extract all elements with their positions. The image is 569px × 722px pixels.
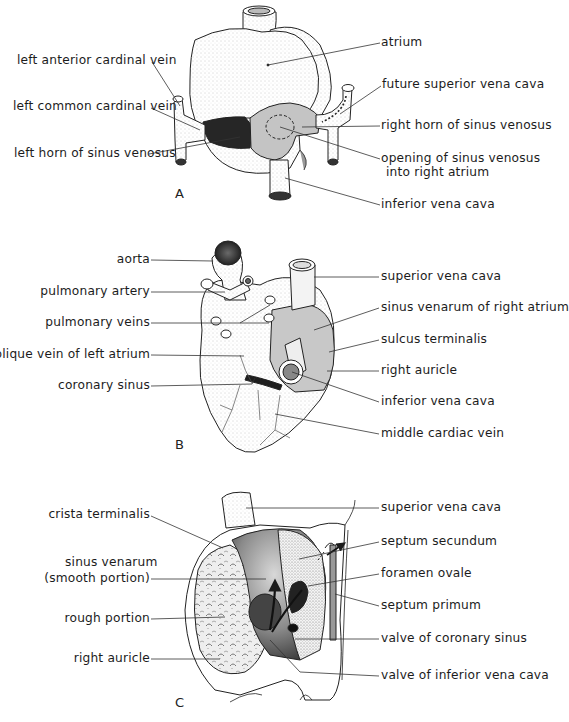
label-atrium: atrium xyxy=(381,35,422,49)
label-right-auricle-c: right auricle xyxy=(74,651,150,665)
label-into-right-atrium: into right atrium xyxy=(386,165,489,179)
label-smooth-portion: (smooth portion) xyxy=(44,571,150,585)
label-right-auricle-b: right auricle xyxy=(381,363,457,377)
label-future-superior-vena-cava: future superior vena cava xyxy=(382,77,544,91)
label-valve-inferior-vena-cava: valve of inferior vena cava xyxy=(381,668,549,682)
panel-a-drawing xyxy=(149,6,381,205)
label-middle-cardiac-vein: middle cardiac vein xyxy=(381,426,504,440)
label-sinus-venarum: sinus venarum xyxy=(65,555,155,569)
label-coronary-sinus: coronary sinus xyxy=(58,378,150,392)
panel-letter-b: B xyxy=(175,437,184,452)
label-inferior-vena-cava-a: inferior vena cava xyxy=(381,197,495,211)
panel-b-drawing xyxy=(151,241,379,452)
label-foramen-ovale: foramen ovale xyxy=(381,566,472,580)
label-sinus-venarum-right-atrium: sinus venarum of right atrium xyxy=(381,300,569,314)
label-opening-sinus-venosus: opening of sinus venosus xyxy=(381,151,540,165)
label-pulmonary-veins: pulmonary veins xyxy=(45,315,150,329)
label-left-common-cardinal-vein: left common cardinal vein xyxy=(13,99,177,113)
label-inferior-vena-cava-b: inferior vena cava xyxy=(381,394,495,408)
panel-letter-a: A xyxy=(175,186,184,201)
label-septum-primum: septum primum xyxy=(381,598,481,612)
label-sulcus-terminalis: sulcus terminalis xyxy=(381,332,487,346)
label-oblique-vein-left-atrium: oblique vein of left atrium xyxy=(0,347,150,361)
label-superior-vena-cava-c: superior vena cava xyxy=(381,500,501,514)
label-septum-secundum: septum secundum xyxy=(381,534,497,548)
label-superior-vena-cava-b: superior vena cava xyxy=(381,269,501,283)
label-left-horn-sinus-venosus: left horn of sinus venosus xyxy=(14,146,176,160)
label-rough-portion: rough portion xyxy=(65,611,150,625)
label-aorta: aorta xyxy=(117,252,150,266)
label-pulmonary-artery: pulmonary artery xyxy=(40,284,150,298)
label-right-horn-sinus-venosus: right horn of sinus venosus xyxy=(381,118,552,132)
label-crista-terminalis: crista terminalis xyxy=(48,507,150,521)
panel-letter-c: C xyxy=(175,695,184,710)
panel-c-drawing xyxy=(151,492,379,702)
label-valve-coronary-sinus: valve of coronary sinus xyxy=(381,631,527,645)
label-left-anterior-cardinal-vein: left anterior cardinal vein xyxy=(17,53,177,67)
